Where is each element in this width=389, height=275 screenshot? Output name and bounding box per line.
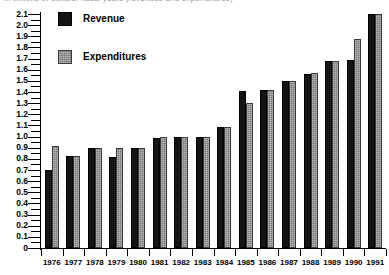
x-axis-tick xyxy=(84,249,85,256)
x-axis-tick xyxy=(300,249,301,256)
y-axis-minor-tick xyxy=(31,42,40,43)
bar-expenditures-1990 xyxy=(354,39,361,248)
bar-revenue-1989 xyxy=(325,61,332,248)
y-axis-tick-label: 0.5 xyxy=(2,188,28,197)
y-axis-minor-tick xyxy=(31,86,40,87)
bar-revenue-1984 xyxy=(217,127,224,248)
y-axis-minor-tick xyxy=(31,220,40,221)
y-axis-tick xyxy=(28,59,40,60)
bar-expenditures-1982 xyxy=(181,137,188,248)
bar-expenditures-1980 xyxy=(138,148,145,248)
y-axis-tick xyxy=(28,137,40,138)
x-axis-tick-label: 1991 xyxy=(360,259,389,267)
y-axis-tick xyxy=(28,192,40,193)
x-axis-tick xyxy=(386,249,387,256)
bar-expenditures-1981 xyxy=(160,137,167,248)
y-axis-minor-tick xyxy=(31,120,40,121)
y-axis-minor-tick xyxy=(31,64,40,65)
y-axis-minor-tick xyxy=(31,209,40,210)
y-axis-minor-tick xyxy=(31,109,40,110)
y-axis-tick xyxy=(28,36,40,37)
y-axis-tick xyxy=(28,237,40,238)
black-square-icon xyxy=(58,12,72,26)
bar-expenditures-1976 xyxy=(52,146,59,249)
y-axis-minor-tick xyxy=(31,198,40,199)
y-axis-tick-label: 1.2 xyxy=(2,110,28,119)
bar-revenue-1986 xyxy=(260,90,267,248)
y-axis-tick xyxy=(28,170,40,171)
y-axis-tick-label: 1.0 xyxy=(2,132,28,141)
y-axis-tick xyxy=(28,92,40,93)
y-axis-tick-label: 1.3 xyxy=(2,99,28,108)
bar-revenue-1977 xyxy=(66,156,73,248)
y-axis-minor-tick xyxy=(31,231,40,232)
y-axis-tick xyxy=(28,203,40,204)
bar-expenditures-1979 xyxy=(116,148,123,248)
gray-square-icon xyxy=(58,50,72,64)
bar-revenue-1976 xyxy=(45,170,52,248)
bar-revenue-1979 xyxy=(109,157,116,248)
y-axis-tick xyxy=(28,25,40,26)
bar-expenditures-1977 xyxy=(73,156,80,248)
bar-expenditures-1988 xyxy=(311,73,318,248)
y-axis-tick xyxy=(28,181,40,182)
x-axis-tick xyxy=(192,249,193,256)
x-axis-tick xyxy=(235,249,236,256)
y-axis-tick xyxy=(28,14,40,15)
y-axis-tick-label: 0.6 xyxy=(2,177,28,186)
bar-revenue-1978 xyxy=(88,148,95,248)
bar-expenditures-1987 xyxy=(289,81,296,248)
x-axis-tick xyxy=(63,249,64,256)
bar-expenditures-1984 xyxy=(224,127,231,248)
y-axis-minor-tick xyxy=(31,98,40,99)
x-axis-tick xyxy=(257,249,258,256)
x-axis-tick xyxy=(41,249,42,256)
y-axis-tick-label: 1.8 xyxy=(2,43,28,52)
x-axis-tick xyxy=(214,249,215,256)
y-axis-tick xyxy=(28,215,40,216)
x-axis-tick xyxy=(278,249,279,256)
y-axis-tick xyxy=(28,148,40,149)
y-axis-tick xyxy=(28,248,40,249)
y-axis-tick-label: 2.0 xyxy=(2,21,28,30)
y-axis-tick-label: 0.7 xyxy=(2,166,28,175)
bar-chart: 00.10.20.30.40.50.60.70.80.91.01.11.21.3… xyxy=(0,0,389,275)
y-axis-minor-tick xyxy=(31,75,40,76)
bar-revenue-1987 xyxy=(282,81,289,248)
y-axis-tick xyxy=(28,47,40,48)
y-axis-tick-label: 0.1 xyxy=(2,232,28,241)
y-axis-minor-tick xyxy=(31,164,40,165)
y-axis-tick-label: 0.9 xyxy=(2,143,28,152)
bar-expenditures-1989 xyxy=(332,61,339,248)
x-axis-tick xyxy=(321,249,322,256)
y-axis-tick-label: 0.8 xyxy=(2,154,28,163)
y-axis-minor-tick xyxy=(31,153,40,154)
legend-item-expenditures: Expenditures xyxy=(58,50,146,64)
bar-revenue-1982 xyxy=(174,137,181,248)
chart-legend: Revenue Expenditures xyxy=(58,12,146,88)
y-axis-minor-tick xyxy=(31,142,40,143)
bar-revenue-1981 xyxy=(153,138,160,248)
y-axis-tick-label: 0.4 xyxy=(2,199,28,208)
y-axis-tick-label: 1.5 xyxy=(2,76,28,85)
y-axis-tick xyxy=(28,159,40,160)
y-axis-tick xyxy=(28,81,40,82)
x-axis-tick xyxy=(343,249,344,256)
bar-expenditures-1991 xyxy=(375,14,382,248)
bar-revenue-1988 xyxy=(304,74,311,248)
y-axis-tick-label: 1.6 xyxy=(2,65,28,74)
y-axis-tick-label: 1.4 xyxy=(2,88,28,97)
y-axis-tick xyxy=(28,70,40,71)
y-axis-tick xyxy=(28,226,40,227)
bar-revenue-1991 xyxy=(368,14,375,248)
y-axis-labels: 00.10.20.30.40.50.60.70.80.91.01.11.21.3… xyxy=(0,0,28,275)
legend-label-revenue: Revenue xyxy=(83,14,125,24)
x-axis-tick xyxy=(364,249,365,256)
x-axis-tick xyxy=(170,249,171,256)
bar-revenue-1983 xyxy=(196,137,203,248)
y-axis-minor-tick xyxy=(31,53,40,54)
y-axis-tick-label: 0.2 xyxy=(2,221,28,230)
y-axis-tick-label: 0.3 xyxy=(2,210,28,219)
legend-item-revenue: Revenue xyxy=(58,12,146,26)
y-axis-minor-tick xyxy=(31,131,40,132)
